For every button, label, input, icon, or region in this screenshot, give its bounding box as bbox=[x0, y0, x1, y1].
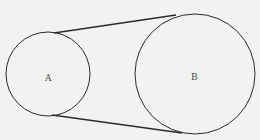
circle-a-label: A bbox=[44, 73, 52, 83]
top-tangent-line bbox=[54, 15, 176, 33]
pulley-diagram: A B bbox=[0, 0, 260, 140]
circle-b-label: B bbox=[191, 72, 198, 82]
